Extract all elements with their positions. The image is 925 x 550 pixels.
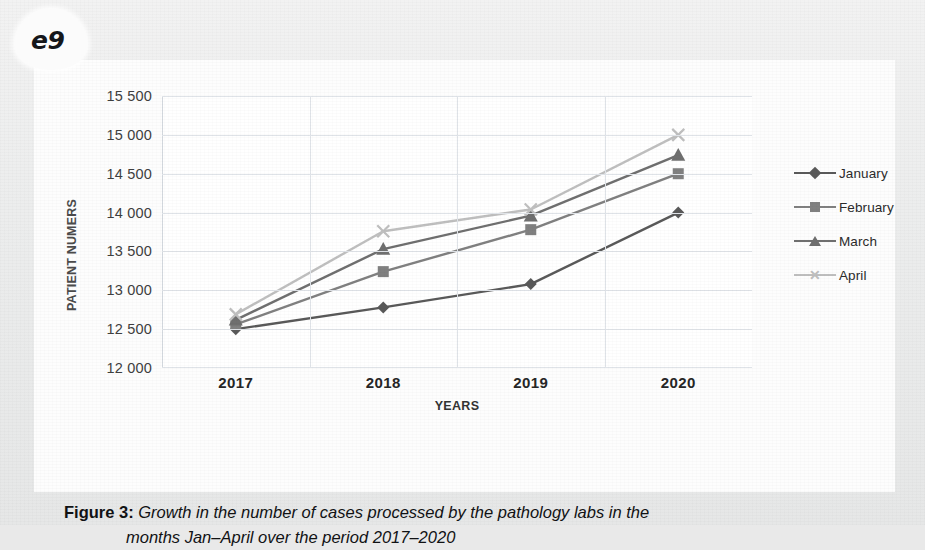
chart-legend: JanuaryFebruaryMarch✕April — [794, 156, 925, 292]
legend-key — [794, 200, 836, 214]
page-number-label: e9 — [31, 26, 64, 55]
data-point-marker — [671, 148, 685, 161]
data-point-marker — [525, 278, 537, 290]
y-axis-tick-labels: 12 00012 50013 00013 50014 00014 50015 0… — [68, 96, 152, 368]
gridline-vertical — [310, 96, 311, 368]
square-marker-icon — [810, 202, 820, 212]
legend-item-april[interactable]: ✕April — [794, 258, 925, 292]
y-axis-tick-label: 12 500 — [106, 321, 152, 337]
figure-caption-line1: Growth in the number of cases processed … — [138, 503, 649, 521]
triangle-marker-icon — [809, 236, 821, 246]
legend-item-january[interactable]: January — [794, 156, 925, 190]
x-axis-tick-label: 2017 — [218, 374, 253, 391]
page-number-tab: e9 — [14, 8, 88, 70]
figure-caption-label: Figure 3: — [64, 503, 134, 521]
legend-key: ✕ — [794, 268, 836, 282]
y-axis-tick-label: 14 500 — [106, 166, 152, 182]
legend-item-february[interactable]: February — [794, 190, 925, 224]
legend-label: April — [836, 268, 867, 283]
data-point-marker — [377, 301, 389, 313]
x-axis-tick-labels: 2017201820192020 — [162, 374, 752, 398]
figure-caption: Figure 3: Growth in the number of cases … — [64, 500, 764, 550]
figure-caption-line2: months Jan–April over the period 2017–20… — [64, 525, 764, 550]
x-axis-tick-label: 2018 — [366, 374, 401, 391]
y-axis-tick-label: 13 500 — [106, 243, 152, 259]
legend-key — [794, 234, 836, 248]
diamond-marker-icon — [809, 167, 822, 180]
y-axis-tick-label: 15 000 — [106, 127, 152, 143]
plot-area — [162, 96, 752, 368]
y-axis-tick-label: 12 000 — [106, 360, 152, 376]
x-axis-tick-label: 2020 — [661, 374, 696, 391]
legend-label: January — [836, 166, 888, 181]
x-axis-tick-label: 2019 — [513, 374, 548, 391]
y-axis-tick-label: 14 000 — [106, 205, 152, 221]
gridline-vertical — [605, 96, 606, 368]
legend-item-march[interactable]: March — [794, 224, 925, 258]
x-marker-icon: ✕ — [809, 270, 821, 280]
gridline-vertical — [457, 96, 458, 368]
legend-label: February — [836, 200, 894, 215]
y-axis-tick-label: 15 500 — [106, 88, 152, 104]
y-axis-tick-label: 13 000 — [106, 282, 152, 298]
figure-panel: PATIENT NUMERS 12 00012 50013 00013 5001… — [34, 60, 895, 492]
data-point-marker — [378, 266, 389, 277]
legend-key — [794, 166, 836, 180]
legend-label: March — [836, 234, 877, 249]
data-point-marker — [525, 224, 536, 235]
line-chart: PATIENT NUMERS 12 00012 50013 00013 5001… — [34, 96, 895, 446]
x-axis-title: YEARS — [162, 399, 752, 413]
